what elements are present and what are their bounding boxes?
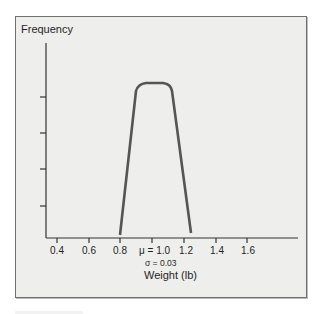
y-axis-label: Frequency xyxy=(21,23,73,35)
x-tick-label: 0.4 xyxy=(50,245,64,256)
std-dev-annotation: σ = 0.03 xyxy=(145,258,176,268)
mean-annotation: μ = 1.0 xyxy=(139,245,170,256)
x-tick-label: 0.6 xyxy=(82,245,96,256)
x-tick-label: 1.6 xyxy=(241,245,255,256)
x-tick-label: 0.8 xyxy=(113,245,127,256)
x-tick-label: 1.2 xyxy=(179,245,193,256)
x-axis-label: Weight (lb) xyxy=(144,269,197,281)
distribution-curve xyxy=(120,83,191,235)
x-tick-label: 1.4 xyxy=(210,245,224,256)
